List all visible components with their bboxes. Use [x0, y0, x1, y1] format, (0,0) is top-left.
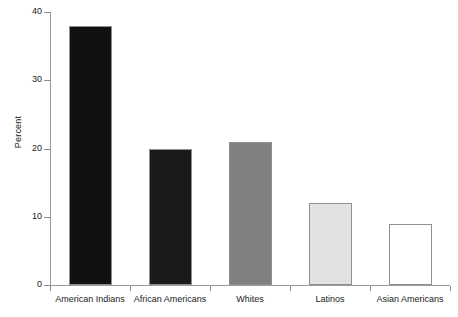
- y-axis-tick-label: 40: [14, 7, 42, 16]
- x-axis-line: [50, 285, 450, 286]
- x-axis-label: African Americans: [130, 294, 210, 305]
- bar: [309, 203, 352, 285]
- x-axis-tick: [290, 286, 291, 291]
- bar: [149, 149, 192, 286]
- bar: [389, 224, 432, 285]
- y-axis-tick: [44, 12, 51, 13]
- bar-chart: Percent 010203040 American IndiansAfrica…: [0, 0, 458, 317]
- x-axis-tick: [450, 286, 451, 291]
- x-axis-tick: [370, 286, 371, 291]
- x-axis-tick: [130, 286, 131, 291]
- y-axis-tick: [44, 149, 51, 150]
- bar: [69, 26, 112, 285]
- x-axis-tick: [50, 286, 51, 291]
- y-axis-tick-label: 20: [14, 144, 42, 153]
- y-axis-tick: [44, 217, 51, 218]
- y-axis-tick-label: 10: [14, 212, 42, 221]
- y-axis-tick-label: 30: [14, 75, 42, 84]
- x-axis-tick: [210, 286, 211, 291]
- y-axis-tick-label: 0: [14, 280, 42, 289]
- x-axis-label: Latinos: [290, 294, 370, 305]
- bar: [229, 142, 272, 285]
- y-axis-tick: [44, 80, 51, 81]
- x-axis-label: American Indians: [50, 294, 130, 305]
- y-axis-title: Percent: [10, 102, 26, 162]
- x-axis-label: Whites: [210, 294, 290, 305]
- x-axis-label: Asian Americans: [370, 294, 450, 305]
